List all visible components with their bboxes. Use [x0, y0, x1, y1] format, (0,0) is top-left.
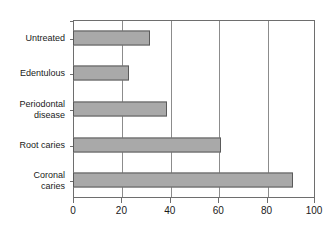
x-axis-tick [121, 198, 122, 203]
y-axis-label-edentulous: Edentulous [0, 68, 65, 79]
x-axis-label-40: 40 [164, 205, 175, 217]
x-axis: 0 20 40 60 80 100 [73, 198, 315, 228]
y-axis-labels: Untreated Edentulous Periodontal disease… [0, 20, 69, 198]
x-axis-label-0: 0 [70, 205, 76, 217]
y-axis-label-untreated: Untreated [0, 33, 65, 44]
x-axis-tick [314, 198, 315, 203]
bar-edentulous [73, 66, 129, 81]
x-axis-label-100: 100 [306, 205, 323, 217]
x-axis-label-80: 80 [261, 205, 272, 217]
y-axis-label-periodontal-disease: Periodontal disease [0, 99, 65, 120]
bars-layer [73, 20, 315, 198]
y-axis-label-coronal-caries: Coronal caries [0, 170, 65, 191]
x-axis-tick [218, 198, 219, 203]
y-axis-label-root-caries: Root caries [0, 139, 65, 150]
bar-row [73, 56, 315, 92]
bar-chart: Untreated Edentulous Periodontal disease… [0, 0, 336, 237]
bar-root-caries [73, 137, 221, 152]
x-axis-label-60: 60 [213, 205, 224, 217]
x-axis-label-20: 20 [116, 205, 127, 217]
bar-row [73, 127, 315, 163]
x-axis-tick [170, 198, 171, 203]
x-axis-tick [73, 198, 74, 203]
bar-periodontal-disease [73, 101, 167, 116]
bar-row [73, 162, 315, 198]
bar-coronal-caries [73, 173, 293, 188]
bar-untreated [73, 30, 150, 45]
bar-row [73, 20, 315, 56]
bar-row [73, 91, 315, 127]
x-axis-tick [267, 198, 268, 203]
